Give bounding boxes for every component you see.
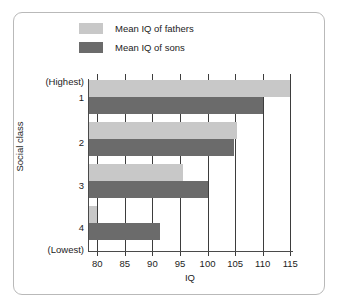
y-tick-2: 2 xyxy=(79,137,84,148)
y-tick-3: 3 xyxy=(79,180,84,191)
chart-figure: Mean IQ of fathers Mean IQ of sons Socia… xyxy=(0,0,338,307)
y-axis-tick-labels: (Highest) 1 2 3 4 (Lowest) xyxy=(18,79,84,251)
x-tick-label-90: 90 xyxy=(147,258,158,269)
legend-swatch-fathers xyxy=(79,23,103,34)
tick-top-95 xyxy=(180,74,181,79)
tick-top-105 xyxy=(235,74,236,79)
tick-bottom-110 xyxy=(263,252,264,256)
tick-top-80 xyxy=(97,74,98,79)
bar-class-3-fathers xyxy=(89,164,183,181)
y-tick-lowest: (Lowest) xyxy=(48,244,84,255)
gridline-115 xyxy=(290,79,291,251)
x-tick-label-105: 105 xyxy=(227,258,243,269)
bar-class-3-sons xyxy=(89,181,208,198)
tick-top-90 xyxy=(152,74,153,79)
tick-bottom-85 xyxy=(125,252,126,256)
tick-bottom-105 xyxy=(235,252,236,256)
tick-bottom-100 xyxy=(208,252,209,256)
plot-area: 80859095100105110115 xyxy=(88,79,293,252)
tick-bottom-80 xyxy=(97,252,98,256)
x-tick-label-95: 95 xyxy=(175,258,186,269)
bar-class-1-sons xyxy=(89,97,263,114)
tick-bottom-90 xyxy=(152,252,153,256)
x-tick-label-85: 85 xyxy=(120,258,131,269)
x-tick-label-80: 80 xyxy=(92,258,103,269)
bar-class-4-fathers xyxy=(89,206,97,223)
legend-item-fathers: Mean IQ of fathers xyxy=(79,20,259,37)
bar-class-2-sons xyxy=(89,139,234,156)
x-tick-label-115: 115 xyxy=(283,258,298,269)
x-axis-title: IQ xyxy=(88,272,292,283)
legend-swatch-sons xyxy=(79,42,103,53)
gridline-110 xyxy=(263,79,264,251)
tick-bottom-95 xyxy=(180,252,181,256)
tick-bottom-115 xyxy=(290,252,291,256)
y-tick-4: 4 xyxy=(79,222,84,233)
legend-label-fathers: Mean IQ of fathers xyxy=(115,23,194,34)
legend-label-sons: Mean IQ of sons xyxy=(115,42,185,53)
x-tick-label-100: 100 xyxy=(200,258,216,269)
legend-item-sons: Mean IQ of sons xyxy=(79,39,259,56)
tick-top-100 xyxy=(208,74,209,79)
tick-top-110 xyxy=(263,74,264,79)
tick-top-115 xyxy=(290,74,291,79)
bar-class-1-fathers xyxy=(89,80,290,97)
bar-class-2-fathers xyxy=(89,122,237,139)
chart-legend: Mean IQ of fathers Mean IQ of sons xyxy=(79,20,259,58)
y-tick-1: 1 xyxy=(79,92,84,103)
tick-top-85 xyxy=(125,74,126,79)
x-tick-label-110: 110 xyxy=(255,258,270,269)
bar-class-4-sons xyxy=(89,223,160,240)
y-tick-highest: (Highest) xyxy=(45,76,84,87)
